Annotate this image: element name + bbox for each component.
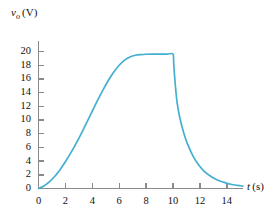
chart-figure: vo (V) t (s) 02468101214161820 024681012… <box>0 0 278 223</box>
data-series-group <box>39 53 243 188</box>
y-tick-label: 18 <box>9 60 31 71</box>
chart-plot-area <box>0 0 278 223</box>
tick-marks-group <box>39 52 227 189</box>
y-tick-label: 8 <box>9 128 31 139</box>
x-axis-title: t (s) <box>247 181 264 192</box>
x-tick-label: 12 <box>191 196 209 207</box>
x-tick-label: 0 <box>30 196 48 207</box>
y-tick-label: 6 <box>9 142 31 153</box>
x-axis-variable: t <box>247 180 250 192</box>
y-tick-label: 16 <box>9 73 31 84</box>
axes-group <box>39 41 243 188</box>
x-axis-unit: (s) <box>252 180 264 192</box>
y-tick-label: 0 <box>9 183 31 194</box>
y-tick-label: 2 <box>9 169 31 180</box>
x-tick-label: 8 <box>137 196 155 207</box>
x-tick-label: 10 <box>164 196 182 207</box>
y-tick-label: 4 <box>9 156 31 167</box>
y-axis-unit: (V) <box>22 6 37 18</box>
y-tick-label: 12 <box>9 101 31 112</box>
x-tick-label: 4 <box>83 196 101 207</box>
y-axis-subscript: o <box>16 12 20 21</box>
data-series-line <box>39 53 243 188</box>
y-tick-label: 20 <box>9 46 31 57</box>
x-tick-label: 2 <box>56 196 74 207</box>
x-tick-label: 14 <box>218 196 236 207</box>
x-tick-label: 6 <box>110 196 128 207</box>
y-tick-label: 10 <box>9 114 31 125</box>
y-axis-title: vo (V) <box>11 7 37 21</box>
y-tick-label: 14 <box>9 87 31 98</box>
